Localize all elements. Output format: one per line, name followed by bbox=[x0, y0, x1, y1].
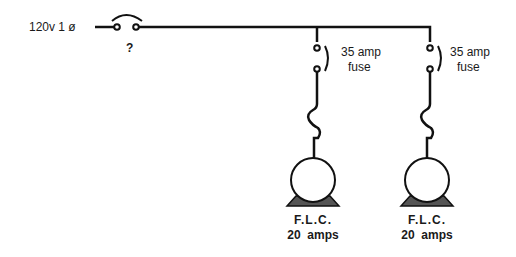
fuse-1-label-line1: 35 amp bbox=[341, 45, 381, 59]
motor-2-amps-label: 20 amps bbox=[401, 228, 453, 242]
motor-1-amps-label: 20 amps bbox=[287, 228, 339, 242]
fuse-arc bbox=[325, 46, 328, 71]
main-bus bbox=[139, 27, 430, 42]
fuse-1-label-line2: fuse bbox=[348, 60, 371, 74]
main-switch bbox=[112, 15, 142, 30]
motor-1-circle bbox=[291, 158, 335, 202]
motor-2 bbox=[401, 158, 453, 206]
fuse-terminal-top bbox=[314, 45, 320, 51]
fuse-2 bbox=[427, 45, 441, 72]
supply-label: 120v 1 ø bbox=[29, 20, 76, 34]
branch-2: 35 amp fuse F.L.C. 20 amps bbox=[401, 45, 490, 242]
fuse-terminal-bottom bbox=[314, 66, 320, 72]
switch-terminal-right bbox=[133, 24, 139, 30]
switch-terminal-left bbox=[114, 24, 120, 30]
motor-2-lead bbox=[421, 72, 433, 158]
motor-1-lead bbox=[308, 72, 320, 158]
fuse-terminal-top bbox=[427, 45, 433, 51]
fuse-2-label-line2: fuse bbox=[457, 60, 480, 74]
fuse-terminal-bottom bbox=[427, 66, 433, 72]
motor-2-circle bbox=[405, 158, 449, 202]
fuse-1 bbox=[314, 45, 328, 72]
motor-2-flc-label: F.L.C. bbox=[408, 213, 446, 227]
motor-1 bbox=[287, 158, 339, 206]
main-switch-label: ? bbox=[126, 41, 133, 55]
switch-blade-arc bbox=[112, 15, 142, 21]
fuse-arc bbox=[438, 46, 441, 71]
motor-1-flc-label: F.L.C. bbox=[294, 213, 332, 227]
branch-1: 35 amp fuse F.L.C. 20 amps bbox=[287, 45, 381, 242]
fuse-2-label-line1: 35 amp bbox=[450, 45, 490, 59]
circuit-diagram: 120v 1 ø ? 35 amp fuse F.L.C. 20 amps bbox=[0, 0, 516, 257]
